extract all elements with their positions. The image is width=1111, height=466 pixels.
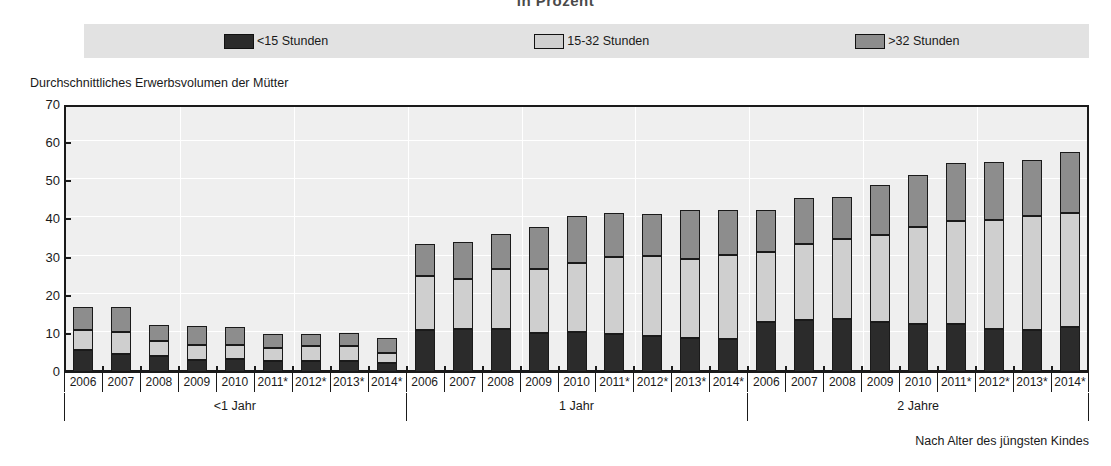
legend-label: >32 Stunden [888,34,959,48]
legend-label: 15-32 Stunden [567,34,649,48]
x-tick-label: 2007 [444,373,482,392]
x-tick-mark [520,366,522,373]
gridline [66,216,1087,217]
x-tick-label: 2006 [64,373,102,392]
mid-swatch [855,34,885,49]
y-tick-label: 10 [26,327,60,340]
gridline [66,178,1087,179]
x-tick-mark [1051,366,1053,373]
x-tick-label: 2007 [102,373,140,392]
x-tick-mark [254,366,256,373]
y-tick-mark [64,142,71,144]
x-tick-mark [482,366,484,373]
chart-footnote: Nach Alter des jüngsten Kindes [915,434,1089,448]
y-tick-label: 60 [26,136,60,149]
x-tick-label: 2013* [671,373,709,392]
x-tick-mark [747,366,749,373]
y-tick-mark [64,333,71,335]
chart-legend: <15 Stunden15-32 Stunden>32 Stunden [84,24,1089,58]
legend-item-3: >32 Stunden [855,34,959,49]
legend-item-1: <15 Stunden [224,34,328,49]
x-tick-label: 2011* [937,373,975,392]
x-tick-mark [1013,366,1015,373]
gridline [66,140,1087,141]
x-tick-label: 2012* [975,373,1013,392]
gridline [66,255,1087,256]
x-tick-mark [558,366,560,373]
x-tick-label: 2007 [785,373,823,392]
y-tick-label: 70 [26,98,60,111]
vertical-gridline [749,107,750,370]
x-tick-mark [785,366,787,373]
x-tick-mark [216,366,218,373]
x-tick-label: 2008 [823,373,861,392]
vertical-gridline [294,107,295,370]
x-tick-label: 2011* [595,373,633,392]
vertical-gridline [180,107,181,370]
x-tick-label: 2010 [216,373,254,392]
x-tick-mark [975,366,977,373]
group-label-band: <1 Jahr1 Jahr2 Jahre [64,393,1089,423]
gridline [66,331,1087,332]
vertical-gridline [863,107,864,370]
x-tick-mark [899,366,901,373]
x-axis-tick-labels: 200620072008200920102011*2012*2013*2014*… [64,373,1089,393]
x-tick-label: 2012* [292,373,330,392]
x-tick-mark [64,366,66,373]
x-tick-label: 2014* [1051,373,1089,392]
plot-area [64,105,1089,372]
vertical-gridline [635,107,636,370]
x-tick-label: 2009 [178,373,216,392]
chart-title: in Prozent [0,0,1111,9]
x-tick-label: 2008 [140,373,178,392]
vertical-gridline [408,107,409,370]
x-tick-mark [595,366,597,373]
x-tick-label: 2010 [899,373,937,392]
group-label-1: <1 Jahr [64,399,406,413]
x-tick-mark [709,366,711,373]
x-tick-mark [102,366,104,373]
x-tick-label: 2014* [368,373,406,392]
x-label-separator [1088,369,1089,392]
x-tick-mark [292,366,294,373]
group-divider [1088,393,1089,421]
x-tick-mark [368,366,370,373]
group-divider [406,393,407,421]
group-label-3: 2 Jahre [747,399,1089,413]
x-tick-label: 2011* [254,373,292,392]
gridline [66,293,1087,294]
x-tick-label: 2006 [747,373,785,392]
x-tick-label: 2009 [861,373,899,392]
x-tick-mark [140,366,142,373]
y-tick-label: 0 [26,365,60,378]
y-axis-tick-labels: 706050403020100 [18,105,60,372]
x-tick-label: 2010 [558,373,596,392]
x-tick-mark [633,366,635,373]
x-tick-mark [823,366,825,373]
y-tick-label: 20 [26,289,60,302]
y-tick-label: 40 [26,212,60,225]
group-divider [747,393,748,421]
x-tick-label: 2008 [482,373,520,392]
group-divider [64,393,65,421]
legend-label: <15 Stunden [257,34,328,48]
x-tick-mark [330,366,332,373]
light-swatch [534,34,564,49]
x-tick-label: 2009 [520,373,558,392]
y-tick-mark [64,295,71,297]
x-tick-mark [178,366,180,373]
x-tick-label: 2013* [1013,373,1051,392]
x-tick-mark [671,366,673,373]
x-tick-mark [444,366,446,373]
y-tick-mark [64,257,71,259]
y-tick-label: 30 [26,251,60,264]
vertical-gridline [522,107,523,370]
vertical-gridline [977,107,978,370]
x-tick-label: 2013* [330,373,368,392]
y-tick-mark [64,180,71,182]
y-axis-caption: Durchschnittliches Erwerbsvolumen der Mü… [30,76,288,90]
x-tick-label: 2014* [709,373,747,392]
x-tick-label: 2012* [633,373,671,392]
y-tick-label: 50 [26,174,60,187]
legend-item-2: 15-32 Stunden [534,34,649,49]
